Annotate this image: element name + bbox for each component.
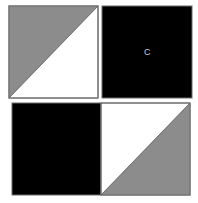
tile-diagram (0, 0, 198, 203)
bottom-left-tile (12, 103, 101, 195)
bottom-right-tile (101, 103, 190, 195)
top-left-tile (9, 6, 98, 98)
tile-label-c: C (144, 48, 151, 57)
